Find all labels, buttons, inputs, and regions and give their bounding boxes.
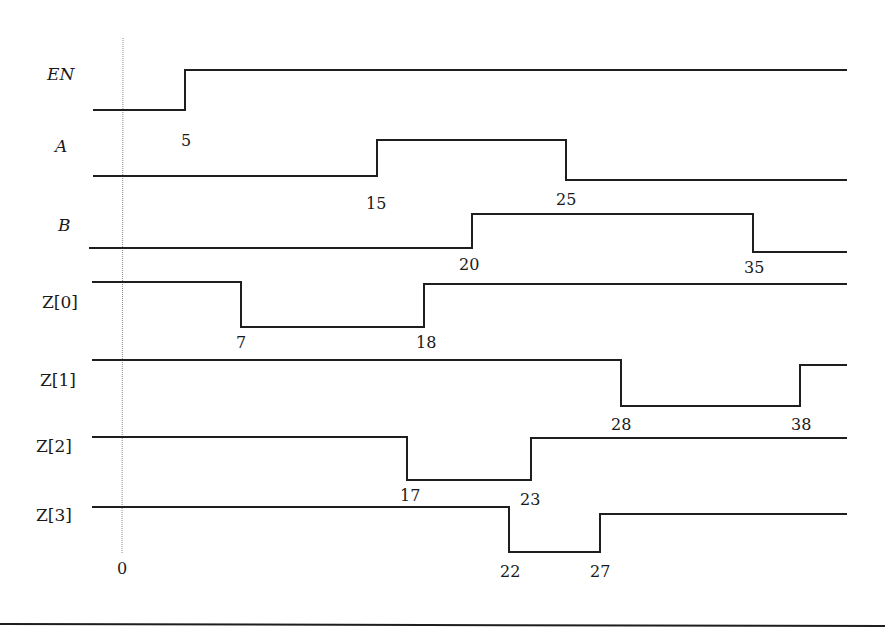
- tick-z2-23: 23: [520, 490, 540, 509]
- signal-en: EN 5: [46, 64, 847, 150]
- tick-z3-27: 27: [590, 562, 610, 581]
- tick-en-5: 5: [181, 131, 191, 150]
- signal-z1: Z[1] 28 38: [40, 360, 847, 434]
- time-zero-axis: [122, 38, 123, 553]
- tick-z1-28: 28: [611, 415, 631, 434]
- signal-label-b: B: [57, 215, 71, 235]
- waveform-b: [89, 214, 847, 252]
- tick-b-20: 20: [459, 255, 479, 274]
- waveform-z3: [92, 507, 847, 552]
- signal-b: B 20 35: [57, 214, 847, 277]
- signal-label-en: EN: [46, 64, 75, 84]
- waveform-en: [93, 70, 847, 110]
- signal-z0: Z[0] 7 18: [42, 282, 847, 352]
- signal-z3: Z[3] 22 27: [36, 505, 847, 581]
- tick-z1-38: 38: [791, 415, 811, 434]
- signal-label-z0: Z[0]: [42, 292, 78, 312]
- tick-z3-22: 22: [500, 562, 520, 581]
- waveform-z0: [92, 282, 847, 327]
- tick-z0-18: 18: [416, 333, 436, 352]
- tick-a-15: 15: [366, 194, 386, 213]
- tick-z2-17: 17: [400, 486, 420, 505]
- waveform-a: [93, 140, 847, 180]
- signal-z2: Z[2] 17 23: [36, 436, 847, 509]
- waveform-z1: [92, 360, 847, 406]
- signal-label-z3: Z[3]: [36, 505, 72, 525]
- origin-label: 0: [117, 559, 127, 578]
- tick-z0-7: 7: [236, 333, 246, 352]
- signal-label-z1: Z[1]: [40, 370, 76, 390]
- signal-label-a: A: [53, 136, 67, 156]
- tick-a-25: 25: [556, 190, 576, 209]
- timing-diagram: 0 EN 5 A 15 25 B 20 35 Z[0] 7 18 Z[1] 28…: [0, 0, 885, 637]
- signal-label-z2: Z[2]: [36, 436, 72, 456]
- signal-a: A 15 25: [53, 136, 847, 213]
- bottom-rule: [0, 624, 885, 626]
- waveform-z2: [92, 437, 847, 480]
- tick-b-35: 35: [744, 258, 764, 277]
